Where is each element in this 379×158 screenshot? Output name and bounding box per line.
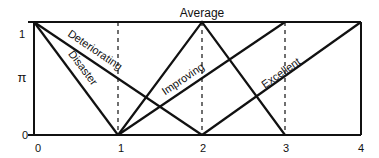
- label-excellent: Excellent: [259, 55, 302, 90]
- x-tick-3: 3: [283, 142, 289, 154]
- scenario-chart: 1 0 π 0 1 2 3 4 Average Deteriorating Di…: [0, 0, 379, 158]
- label-average: Average: [180, 6, 225, 20]
- x-tick-4: 4: [358, 142, 364, 154]
- x-tick-2: 2: [200, 142, 206, 154]
- y-tick-0: 0: [22, 129, 28, 141]
- y-tick-1: 1: [19, 28, 25, 40]
- y-axis-label: π: [18, 70, 27, 85]
- x-tick-0: 0: [35, 142, 41, 154]
- x-tick-1: 1: [118, 142, 124, 154]
